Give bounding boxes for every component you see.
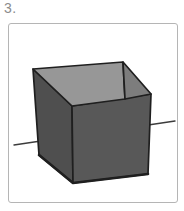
figure-frame bbox=[8, 23, 178, 203]
test-item-card: 3. bbox=[0, 0, 184, 211]
item-number-label: 3. bbox=[4, 0, 17, 16]
